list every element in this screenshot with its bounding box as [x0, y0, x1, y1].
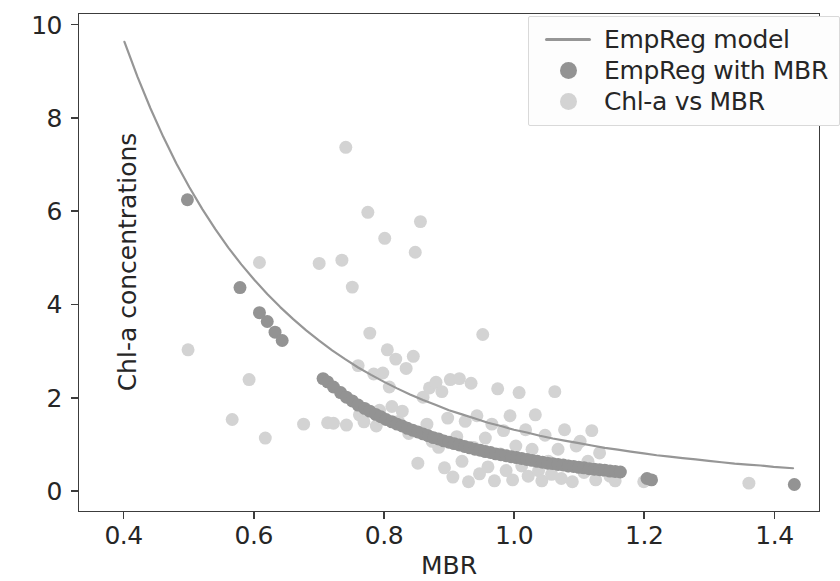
chla-data-point — [297, 418, 310, 431]
chla-data-point — [446, 471, 459, 484]
legend-key-dot-dark — [538, 62, 598, 79]
chla-data-point — [411, 457, 424, 470]
chla-data-point — [339, 141, 352, 154]
chla-data-point — [396, 405, 409, 418]
y-tick-mark — [71, 397, 78, 399]
chla-data-point — [479, 432, 492, 445]
y-tick-mark — [71, 304, 78, 306]
chla-data-point — [574, 435, 587, 448]
x-tick-label: 1.0 — [495, 521, 533, 550]
chla-data-point — [506, 473, 519, 486]
chla-data-point — [552, 443, 565, 456]
chla-data-point — [566, 475, 579, 488]
chla-data-point — [465, 377, 478, 390]
chla-data-point — [481, 460, 494, 473]
chla-data-point — [253, 256, 266, 269]
chla-data-point — [441, 412, 454, 425]
chla-data-point — [491, 382, 504, 395]
chla-data-point — [585, 424, 598, 437]
chla-data-point — [363, 327, 376, 340]
chla-data-point — [182, 343, 195, 356]
x-tick-label: 0.4 — [104, 521, 142, 550]
empreg-data-point — [645, 473, 658, 486]
chla-data-point — [504, 409, 517, 422]
y-tick-label: 0 — [47, 477, 62, 506]
chla-data-point — [414, 215, 427, 228]
line-swatch-icon — [545, 38, 591, 41]
x-tick-mark — [253, 512, 255, 519]
chla-data-point — [435, 385, 448, 398]
y-tick-mark — [71, 210, 78, 212]
y-axis-label: Chl-a concentrations — [113, 133, 142, 392]
x-tick-mark — [123, 512, 125, 519]
chla-data-point — [456, 455, 469, 468]
x-tick-label: 1.2 — [625, 521, 663, 550]
legend-entry-empreg-with-mbr[interactable]: EmpReg with MBR — [538, 55, 828, 86]
chla-data-point — [313, 257, 326, 270]
y-tick-mark — [71, 490, 78, 492]
chla-data-point — [529, 408, 542, 421]
y-tick-label: 6 — [47, 197, 62, 226]
chla-data-point — [346, 281, 359, 294]
circle-marker-icon — [560, 62, 577, 79]
empreg-data-point — [181, 193, 194, 206]
x-tick-mark — [643, 512, 645, 519]
empreg-data-point — [276, 334, 289, 347]
chla-data-point — [488, 474, 501, 487]
chla-data-point — [476, 328, 489, 341]
chla-data-point — [400, 362, 413, 375]
chla-data-point — [407, 350, 420, 363]
chla-data-point — [742, 477, 755, 490]
y-tick-label: 2 — [47, 383, 62, 412]
x-tick-label: 0.6 — [235, 521, 273, 550]
legend: EmpReg model EmpReg with MBR Chl-a vs MB… — [528, 16, 840, 126]
chla-data-point — [453, 372, 466, 385]
chla-data-point — [558, 423, 571, 436]
x-tick-label: 0.8 — [365, 521, 403, 550]
x-tick-mark — [774, 512, 776, 519]
y-tick-label: 8 — [47, 103, 62, 132]
chla-data-point — [226, 413, 239, 426]
legend-key-line — [538, 38, 598, 41]
x-tick-label: 1.4 — [755, 521, 793, 550]
x-tick-mark — [383, 512, 385, 519]
chla-data-point — [378, 232, 391, 245]
empreg-data-point — [261, 315, 274, 328]
empreg-scatter-layer — [181, 193, 801, 491]
empreg-data-point — [234, 281, 247, 294]
chla-data-point — [340, 419, 353, 432]
chla-data-point — [548, 385, 561, 398]
chla-data-point — [361, 206, 374, 219]
x-axis-label: MBR — [421, 551, 477, 580]
x-tick-mark — [513, 512, 515, 519]
chla-data-point — [513, 386, 526, 399]
legend-entry-empreg-model[interactable]: EmpReg model — [538, 24, 828, 55]
chla-data-point — [555, 472, 568, 485]
chla-data-point — [389, 353, 402, 366]
y-tick-label: 4 — [47, 290, 62, 319]
legend-label-chla-vs-mbr: Chl-a vs MBR — [598, 87, 765, 116]
legend-label-empreg-with-mbr: EmpReg with MBR — [598, 56, 828, 85]
empreg-data-point — [788, 478, 801, 491]
chla-data-point — [259, 432, 272, 445]
chla-data-point — [409, 246, 422, 259]
chla-data-point — [243, 373, 256, 386]
empreg-data-point — [614, 466, 627, 479]
y-tick-mark — [71, 117, 78, 119]
circle-marker-icon — [560, 93, 577, 110]
chla-data-point — [327, 417, 340, 430]
legend-entry-chla-vs-mbr[interactable]: Chl-a vs MBR — [538, 86, 828, 117]
chla-data-point — [335, 254, 348, 267]
y-tick-label: 10 — [31, 10, 62, 39]
y-tick-mark — [71, 24, 78, 26]
chla-data-point — [462, 475, 475, 488]
legend-key-dot-light — [538, 93, 598, 110]
legend-label-empreg-model: EmpReg model — [598, 25, 790, 54]
